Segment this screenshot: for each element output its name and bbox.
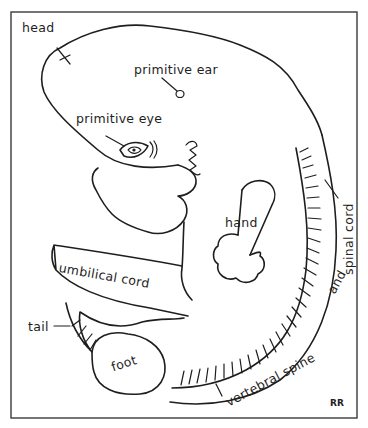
vertebra-ticks xyxy=(181,148,321,385)
eye-pupil xyxy=(132,148,135,151)
label-head: head xyxy=(22,22,54,35)
eye-pointer xyxy=(106,136,124,146)
label-tail: tail xyxy=(28,321,49,334)
label-primitive-ear: primitive ear xyxy=(134,64,218,77)
spine-inner xyxy=(172,148,307,388)
label-hand: hand xyxy=(225,217,258,230)
label-spinal-cord: spinal cord xyxy=(343,203,356,275)
tail-outline xyxy=(66,303,184,352)
eye-arc xyxy=(150,142,153,157)
face-profile xyxy=(92,165,196,234)
head-pointer xyxy=(57,48,70,64)
vertebral-spine-pointer xyxy=(216,384,222,396)
artist-signature: RR xyxy=(330,398,344,408)
embryo-diagram: head primitive ear primitive eye hand um… xyxy=(0,0,368,428)
tail-ticks xyxy=(72,320,96,350)
label-primitive-eye: primitive eye xyxy=(76,113,162,126)
body-front xyxy=(181,222,192,300)
ear-pointer xyxy=(162,78,177,91)
eye-arc xyxy=(154,141,157,158)
head-outline xyxy=(42,25,322,167)
